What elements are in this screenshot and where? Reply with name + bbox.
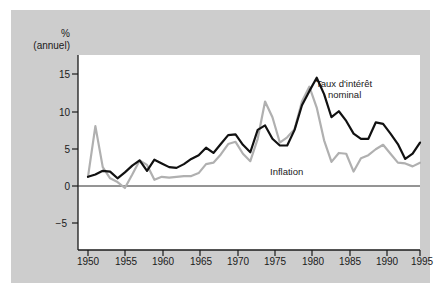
axes-group [78,55,420,250]
y-ticks-group [72,74,78,223]
series-group [88,78,420,188]
chart-figure: % (annuel) 15 10 5 0 −5 1950 1955 1960 1… [0,0,443,293]
x-ticks-group [88,250,420,256]
chart-vector-layer [0,0,443,293]
